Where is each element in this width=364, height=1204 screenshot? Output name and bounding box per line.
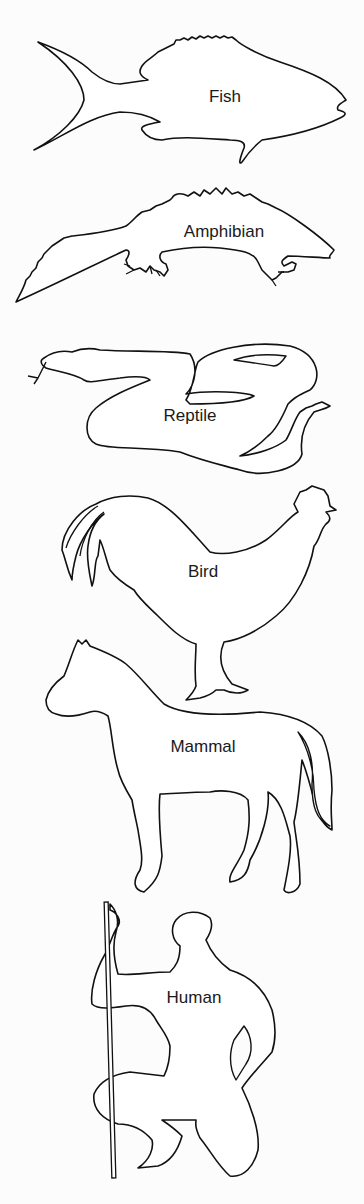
label-amphibian: Amphibian [184, 222, 264, 242]
label-human: Human [167, 988, 222, 1008]
fish-silhouette [34, 36, 346, 163]
mammal-silhouette [46, 640, 332, 892]
label-fish: Fish [209, 87, 241, 107]
label-bird: Bird [188, 562, 218, 582]
vertebrate-diagram [0, 0, 364, 1204]
label-mammal: Mammal [170, 737, 235, 757]
label-reptile: Reptile [164, 406, 217, 426]
amphibian-silhouette [16, 188, 334, 302]
